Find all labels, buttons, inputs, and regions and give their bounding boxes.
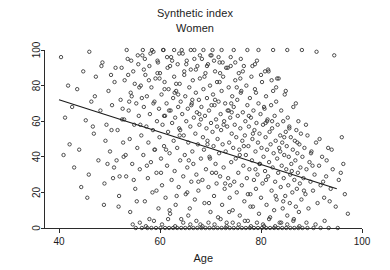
data-point [198,77,201,80]
data-point [209,121,212,124]
data-point [195,173,198,176]
data-point [75,87,78,90]
data-point [235,191,238,194]
data-point [232,105,235,108]
data-point [140,96,143,99]
data-point [179,159,182,162]
data-point [223,102,226,105]
data-point [144,73,147,76]
data-point [152,219,155,222]
data-point [99,109,102,112]
data-point [130,95,133,98]
data-point [194,91,197,94]
data-point [207,221,210,224]
data-point [193,57,196,60]
data-point [213,223,216,226]
data-point [119,98,122,101]
data-point [245,176,248,179]
data-point [154,77,157,80]
data-point [193,48,196,51]
data-point [182,175,185,178]
data-point [244,120,247,123]
data-point [213,70,216,73]
data-point [215,125,218,128]
data-point [233,180,236,183]
data-point [116,128,119,131]
data-point [227,141,230,144]
data-point [304,192,307,195]
data-point [180,48,183,51]
data-point [281,207,284,210]
data-point [168,209,171,212]
data-point [242,64,245,67]
data-point [115,159,118,162]
data-point [191,150,194,153]
data-point [322,196,325,199]
data-point [325,159,328,162]
data-point [103,182,106,185]
data-point [105,123,108,126]
data-point [296,171,299,174]
data-point [243,134,246,137]
data-point [196,64,199,67]
data-point [247,125,250,128]
data-point [150,86,153,89]
data-point [191,79,194,82]
data-point [176,63,179,66]
data-point [149,52,152,55]
data-point [107,89,110,92]
data-point [248,168,251,171]
data-point [178,134,181,137]
data-point [66,84,69,87]
data-point [207,201,210,204]
data-point [254,168,257,171]
data-point [265,203,268,206]
data-point [109,73,112,76]
data-point [181,112,184,115]
data-point [214,118,217,121]
data-point [272,209,275,212]
data-point [211,48,214,51]
data-point [333,54,336,57]
data-point [212,59,215,62]
data-point [160,223,163,226]
data-point [212,144,215,147]
y-axis-tick-label: 20 [31,186,42,198]
data-point [145,95,148,98]
data-point [294,159,297,162]
data-point [62,153,65,156]
data-point [250,75,253,78]
data-point [290,162,293,165]
data-point [117,205,120,208]
data-point [218,175,221,178]
data-point [97,159,100,162]
data-point [289,136,292,139]
data-point [284,89,287,92]
data-point [211,93,214,96]
data-point [137,114,140,117]
data-point [214,171,217,174]
data-point [213,98,216,101]
data-point [155,120,158,123]
data-point [239,57,242,60]
data-point [274,86,277,89]
data-point [157,107,160,110]
data-point [255,121,258,124]
data-point [264,136,267,139]
axes-layer: 020406080100406080100Age [31,41,371,263]
data-point [277,146,280,149]
data-point [257,212,260,215]
data-point [174,203,177,206]
data-point [159,171,162,174]
data-point [220,203,223,206]
data-point [270,189,273,192]
data-point [311,189,314,192]
data-point [177,52,180,55]
data-point [231,95,234,98]
data-point [280,109,283,112]
data-point [321,180,324,183]
data-point [334,205,337,208]
data-point [124,175,127,178]
data-point [219,217,222,220]
data-point [186,107,189,110]
